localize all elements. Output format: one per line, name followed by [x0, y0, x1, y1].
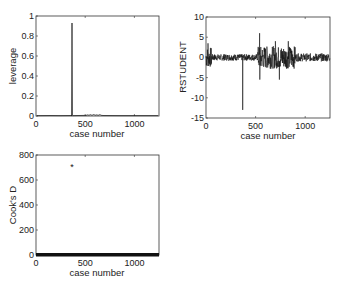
leverage-plot: 0 0.2 0.4 0.6 0.8 1 0 500 1000 case numb… [7, 11, 159, 139]
y-axis-label: Cook's D [7, 186, 18, 224]
x-tick: 1000 [295, 121, 315, 131]
y-tick: 0.6 [21, 51, 34, 61]
y-tick: -5 [196, 73, 204, 83]
y-tick: 0 [199, 52, 204, 62]
y-axis-label: leverage [7, 48, 18, 84]
cooks-d-outlier-marker: * [70, 162, 74, 172]
y-tick: 0.4 [21, 71, 34, 81]
x-axis-label: case number [241, 130, 296, 141]
y-tick: 5 [199, 32, 204, 42]
leverage-axes-box [36, 16, 159, 116]
rstudent-plot: 10 5 0 -5 -10 -15 0 500 1000 case number… [177, 12, 330, 141]
x-tick: 0 [203, 121, 208, 131]
y-tick: 0.8 [21, 31, 34, 41]
y-tick: 800 [19, 150, 34, 160]
figure: 0 0.2 0.4 0.6 0.8 1 0 500 1000 case numb… [0, 0, 340, 287]
y-tick: 600 [19, 175, 34, 185]
x-tick: 0 [33, 258, 38, 268]
x-tick: 1000 [124, 258, 144, 268]
y-tick: 0.2 [21, 91, 34, 101]
cooks-d-baseline-markers [36, 253, 159, 257]
y-tick: 1 [29, 11, 34, 21]
rstudent-series [206, 33, 330, 110]
leverage-series [37, 23, 158, 116]
y-axis-label: RSTUDENT [177, 41, 188, 93]
y-tick: 400 [19, 200, 34, 210]
y-tick: -10 [191, 93, 204, 103]
x-axis-label: case number [70, 267, 125, 278]
cooks-d-plot: 800 600 400 200 0 0 500 1000 case number… [7, 150, 159, 278]
y-tick: 10 [194, 12, 204, 22]
cooks-d-axes-box [36, 155, 159, 255]
x-tick: 1000 [124, 119, 144, 129]
y-tick: -15 [191, 113, 204, 123]
y-tick: 200 [19, 225, 34, 235]
x-tick: 0 [33, 119, 38, 129]
x-axis-label: case number [70, 128, 125, 139]
